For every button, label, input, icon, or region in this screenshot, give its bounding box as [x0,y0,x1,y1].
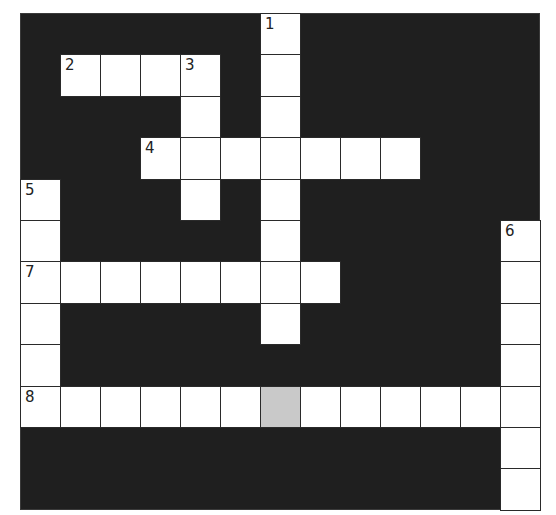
crossword-cell[interactable] [140,261,181,303]
crossword-cell[interactable] [260,220,301,262]
crossword-cell[interactable] [500,261,541,303]
crossword-cell[interactable] [500,386,541,428]
crossword-cell[interactable] [140,54,181,96]
crossword-cell[interactable]: 8 [20,386,61,428]
clue-number: 1 [265,16,275,32]
crossword-cell[interactable] [220,137,261,179]
crossword-cell[interactable] [60,261,101,303]
crossword-cell[interactable] [340,386,381,428]
crossword-cell[interactable] [260,261,301,303]
crossword-cell[interactable] [500,468,541,510]
crossword-cell[interactable]: 2 [60,54,101,96]
crossword-cell[interactable] [500,303,541,345]
crossword-cell[interactable] [500,427,541,469]
crossword-cell[interactable] [260,303,301,345]
crossword-cell[interactable] [420,386,461,428]
crossword-cell[interactable] [340,137,381,179]
crossword-cell[interactable]: 7 [20,261,61,303]
crossword-cell[interactable] [140,386,181,428]
crossword-cell[interactable] [460,386,501,428]
clue-number: 3 [185,57,195,73]
crossword-cell[interactable] [380,137,421,179]
crossword-cell[interactable] [180,386,221,428]
crossword-cell[interactable] [20,344,61,386]
crossword-cell-shaded[interactable] [260,386,301,428]
crossword-cell[interactable] [20,303,61,345]
crossword-cell[interactable] [260,137,301,179]
clue-number: 2 [65,57,75,73]
crossword-cell[interactable] [20,220,61,262]
crossword-cell[interactable] [180,261,221,303]
crossword-cell[interactable] [260,54,301,96]
crossword-cell[interactable] [260,96,301,138]
crossword-cell[interactable]: 3 [180,54,221,96]
crossword-cell[interactable] [220,261,261,303]
crossword-cell[interactable]: 5 [20,179,61,221]
crossword-cell[interactable]: 6 [500,220,541,262]
crossword-cell[interactable]: 1 [260,13,301,55]
crossword-cell[interactable] [180,137,221,179]
crossword-cell[interactable] [180,179,221,221]
crossword-cell[interactable] [100,261,141,303]
crossword-cell[interactable] [380,386,421,428]
crossword-cell[interactable] [500,344,541,386]
clue-number: 5 [25,182,35,198]
crossword-cell[interactable] [100,54,141,96]
crossword-cell[interactable] [100,386,141,428]
crossword-cell[interactable] [60,386,101,428]
clue-number: 4 [145,140,155,156]
crossword-cell[interactable] [300,386,341,428]
crossword-cell[interactable] [300,261,341,303]
crossword-cell[interactable] [220,386,261,428]
crossword-cell[interactable] [260,179,301,221]
crossword-cell[interactable]: 4 [140,137,181,179]
clue-number: 8 [25,389,35,405]
crossword-cell[interactable] [300,137,341,179]
crossword-grid: 12345678 [20,13,540,510]
clue-number: 6 [505,223,515,239]
clue-number: 7 [25,264,35,280]
crossword-cell[interactable] [180,96,221,138]
